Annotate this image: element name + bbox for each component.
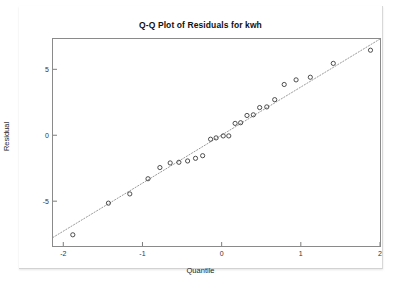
- data-point: [273, 98, 277, 102]
- data-point: [282, 82, 286, 86]
- data-point: [233, 121, 237, 125]
- y-tick-label: -5: [38, 198, 49, 205]
- x-tick-marks: [63, 242, 380, 246]
- chart-title: Q-Q Plot of Residuals for kwh: [0, 20, 401, 30]
- x-tick-label: 2: [378, 250, 382, 257]
- data-point: [186, 159, 190, 163]
- data-point: [239, 121, 243, 125]
- y-tick-label: 5: [38, 66, 49, 73]
- data-point: [128, 192, 132, 196]
- y-tick-label: 0: [38, 132, 49, 139]
- x-tick-label: -1: [139, 250, 145, 257]
- plot-area: [52, 38, 381, 247]
- x-axis-label: Quantile: [0, 266, 401, 275]
- data-point: [208, 137, 212, 141]
- data-point: [331, 61, 335, 65]
- y-axis-label: Residual: [2, 122, 11, 151]
- plot-svg: [53, 39, 380, 246]
- x-tick-label: 1: [299, 250, 303, 257]
- data-point: [258, 105, 262, 109]
- x-tick-label: -2: [60, 250, 66, 257]
- data-point: [193, 156, 197, 160]
- reference-line-group: [53, 39, 380, 237]
- data-point: [227, 134, 231, 138]
- reference-line: [53, 39, 380, 237]
- x-tick-label: 0: [220, 250, 224, 257]
- data-point: [71, 233, 75, 237]
- data-point: [368, 48, 372, 52]
- chart-page: Q-Q Plot of Residuals for kwh -2-1012 50…: [0, 0, 401, 286]
- data-point: [294, 78, 298, 82]
- data-point: [158, 165, 162, 169]
- data-point: [168, 161, 172, 165]
- y-tick-marks: [53, 69, 57, 201]
- data-point: [308, 75, 312, 79]
- data-point: [245, 113, 249, 117]
- data-point: [201, 154, 205, 158]
- data-points-group: [71, 48, 373, 237]
